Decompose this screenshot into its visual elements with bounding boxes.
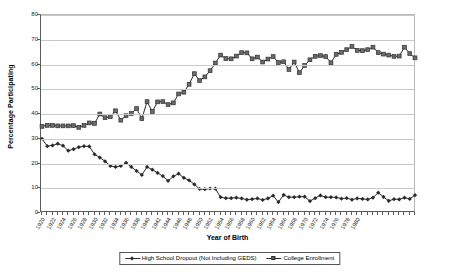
x-axis-tick-mark (214, 212, 215, 215)
data-point-marker (392, 197, 396, 201)
x-axis-title: Year of Birth (40, 234, 415, 241)
data-point-marker (334, 195, 338, 199)
data-point-marker (282, 60, 286, 64)
x-axis-tick-mark (183, 212, 184, 215)
data-point-marker (292, 195, 296, 199)
gridline (41, 139, 414, 140)
x-axis-tick-label: 1956 (224, 216, 235, 230)
data-point-marker (166, 103, 170, 107)
x-axis-tick-label: 1930 (87, 216, 98, 230)
x-axis-tick-mark (277, 212, 278, 215)
data-point-marker (234, 196, 238, 200)
x-axis-tick-mark (403, 212, 404, 215)
x-axis-tick-mark (52, 212, 53, 215)
data-point-marker (318, 193, 322, 197)
data-point-marker (82, 144, 86, 148)
data-point-marker (403, 45, 407, 49)
gridline (41, 188, 414, 189)
x-axis-tick-mark (141, 212, 142, 215)
x-axis-tick-mark (330, 212, 331, 215)
x-axis-tick-label: 1976 (329, 216, 340, 230)
chart-figure: Percentage Participating 010203040506070… (0, 0, 459, 276)
x-axis-tick-mark (309, 212, 310, 215)
data-point-marker (308, 58, 312, 62)
x-axis-tick-mark (146, 212, 147, 215)
x-axis-tick-mark (409, 212, 410, 215)
data-point-marker (297, 195, 301, 199)
x-axis-tick-mark (67, 212, 68, 215)
x-axis-tick-label: 1974 (318, 216, 329, 230)
x-axis-tick-label: 1968 (287, 216, 298, 230)
x-axis-tick-mark (325, 212, 326, 215)
x-axis-tick-label: 1972 (308, 216, 319, 230)
diamond-marker-icon (125, 255, 140, 262)
x-axis-tick-mark (193, 212, 194, 215)
x-axis-tick-mark (367, 212, 368, 215)
chart-legend: High School Dropout (Not Including GEDS)… (119, 252, 340, 265)
x-axis-tick-label: 1954 (213, 216, 224, 230)
y-axis-tick-label: 20 (22, 160, 38, 166)
data-point-marker (187, 82, 191, 86)
gridline (41, 65, 414, 66)
x-axis-tick-mark (162, 212, 163, 215)
gridline (41, 15, 414, 16)
data-point-marker (324, 55, 328, 59)
x-axis-tick-mark (346, 212, 347, 215)
x-axis-tick-label: 1940 (140, 216, 151, 230)
x-axis-tick-label: 1938 (129, 216, 140, 230)
x-axis-tick-mark (382, 212, 383, 215)
data-point-marker (50, 143, 54, 147)
data-point-marker (224, 57, 228, 61)
y-axis-tick-mark (37, 138, 40, 139)
x-axis-tick-mark (414, 212, 415, 215)
y-axis-tick-mark (37, 187, 40, 188)
x-axis-tick-mark (120, 212, 121, 215)
data-point-marker (77, 145, 81, 149)
data-point-marker (361, 49, 365, 53)
data-point-marker (261, 198, 265, 202)
data-point-marker (266, 196, 270, 200)
data-point-marker (208, 69, 212, 73)
x-axis-tick-mark (314, 212, 315, 215)
data-point-marker (77, 125, 81, 129)
x-axis-tick-label: 1924 (56, 216, 67, 230)
plot-area (40, 14, 415, 212)
y-axis-tick-mark (37, 163, 40, 164)
y-axis-tick-label: 70 (22, 36, 38, 42)
data-point-marker (229, 57, 233, 61)
x-axis-tick-label: 1980 (350, 216, 361, 230)
x-axis-tick-mark (167, 212, 168, 215)
x-axis-tick-mark (225, 212, 226, 215)
x-axis-tick-mark (293, 212, 294, 215)
x-axis-tick-mark (372, 212, 373, 215)
data-point-marker (266, 57, 270, 61)
data-point-marker (255, 196, 259, 200)
data-point-marker (397, 197, 401, 201)
data-point-marker (355, 48, 359, 52)
data-point-marker (198, 79, 202, 83)
square-marker-icon (267, 255, 282, 262)
x-axis-tick-mark (151, 212, 152, 215)
x-axis-tick-label: 1948 (182, 216, 193, 230)
data-point-marker (345, 48, 349, 52)
x-axis-tick-mark (377, 212, 378, 215)
x-axis-tick-mark (109, 212, 110, 215)
x-axis-tick-mark (88, 212, 89, 215)
x-axis-tick-mark (335, 212, 336, 215)
x-axis-tick-mark (94, 212, 95, 215)
data-point-marker (240, 196, 244, 200)
x-axis-tick-mark (351, 212, 352, 215)
data-point-marker (408, 52, 412, 56)
data-point-marker (313, 196, 317, 200)
x-axis-tick-mark (262, 212, 263, 215)
data-point-marker (108, 115, 112, 119)
data-point-marker (82, 123, 86, 127)
x-axis-tick-mark (46, 212, 47, 215)
gridline (41, 89, 414, 90)
x-axis-tick-mark (298, 212, 299, 215)
data-point-marker (339, 197, 343, 201)
y-axis-tick-label: 30 (22, 135, 38, 141)
x-axis-tick-label: 1934 (108, 216, 119, 230)
x-axis-tick-mark (204, 212, 205, 215)
series-line (42, 139, 415, 202)
